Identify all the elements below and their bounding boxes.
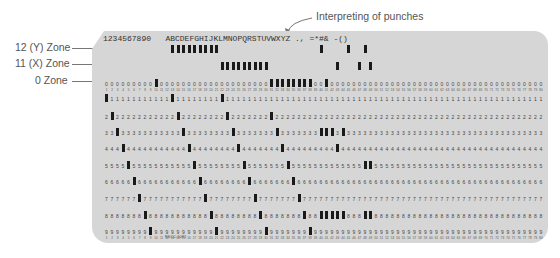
row-digit: 9 (473, 229, 478, 235)
zone-punch (171, 45, 174, 53)
row-digit: 4 (511, 146, 516, 152)
row-digit: 2 (308, 114, 313, 120)
punch-hole (336, 211, 339, 219)
punch-hole (177, 112, 180, 120)
row-digit: 5 (236, 163, 241, 169)
row-digit: 1 (330, 96, 335, 102)
punch-hole (309, 227, 312, 235)
row-digit: 9 (159, 229, 164, 235)
column-number: 61 (434, 88, 439, 92)
row-digit: 9 (363, 229, 368, 235)
row-digit: 0 (429, 81, 434, 87)
row-digit: 0 (379, 81, 384, 87)
column-number: 10 (154, 236, 159, 240)
row-digit: 6 (440, 179, 445, 185)
row-digit: 3 (473, 130, 478, 136)
punch-hole (287, 161, 290, 169)
row-digit: 1 (231, 96, 236, 102)
punch-hole (276, 79, 279, 87)
row-digit: 4 (396, 146, 401, 152)
row-digit: 0 (423, 81, 428, 87)
row-digit: 8 (192, 213, 197, 219)
row-digit: 8 (379, 213, 384, 219)
row-digit: 4 (297, 146, 302, 152)
row-digit: 1 (181, 96, 186, 102)
row-digit: 0 (330, 81, 335, 87)
punch-hole (138, 194, 141, 202)
row-digit: 1 (242, 96, 247, 102)
row-digit: 7 (264, 196, 269, 202)
column-number: 54 (396, 88, 401, 92)
column-number: 41 (324, 236, 329, 240)
column-number: 34 (286, 236, 291, 240)
row-digit: 1 (159, 96, 164, 102)
column-number: 33 (280, 88, 285, 92)
row-digit: 9 (500, 229, 505, 235)
row-digit: 3 (418, 130, 423, 136)
row-digit: 4 (528, 146, 533, 152)
row-digit: 6 (170, 179, 175, 185)
row-digit: 8 (539, 213, 544, 219)
punch-hole (149, 227, 152, 235)
column-number: 70 (484, 88, 489, 92)
row-digit: 5 (209, 163, 214, 169)
row-digit: 3 (308, 130, 313, 136)
row-digit: 9 (517, 229, 522, 235)
row-digit: 2 (324, 114, 329, 120)
column-number: 52 (385, 88, 390, 92)
column-number: 37 (302, 88, 307, 92)
column-number: 77 (522, 236, 527, 240)
row-digit: 5 (187, 163, 192, 169)
row-digit: 1 (407, 96, 412, 102)
row-digit: 9 (291, 229, 296, 235)
row-digit: 0 (198, 81, 203, 87)
row-digit: 5 (330, 163, 335, 169)
row-digit: 7 (220, 196, 225, 202)
row-digit: 3 (297, 130, 302, 136)
row-digit: 7 (506, 196, 511, 202)
row-digit: 2 (126, 114, 131, 120)
column-number: 30 (264, 88, 269, 92)
column-number: 17 (192, 88, 197, 92)
row-digit: 0 (225, 81, 230, 87)
row-digit: 5 (132, 163, 137, 169)
row-digit: 4 (308, 146, 313, 152)
row-digit: 8 (313, 213, 318, 219)
row-digit: 2 (357, 114, 362, 120)
row-digit: 2 (500, 114, 505, 120)
row-digit: 8 (346, 213, 351, 219)
row-digit: 5 (517, 163, 522, 169)
column-number: 25 (236, 236, 241, 240)
column-number: 12 (165, 236, 170, 240)
row-digit: 0 (484, 81, 489, 87)
row-digit: 1 (132, 96, 137, 102)
column-number: 16 (187, 88, 192, 92)
row-digit: 2 (264, 114, 269, 120)
row-digit: 0 (187, 81, 192, 87)
row-digit: 1 (445, 96, 450, 102)
row-digit: 6 (231, 179, 236, 185)
row-digit: 5 (407, 163, 412, 169)
row-digit: 1 (143, 96, 148, 102)
row-digit: 9 (357, 229, 362, 235)
row-digit: 2 (522, 114, 527, 120)
row-digit: 6 (209, 179, 214, 185)
row-digit: 1 (154, 96, 159, 102)
row-digit: 2 (165, 114, 170, 120)
row-digit: 5 (522, 163, 527, 169)
row-digit: 1 (264, 96, 269, 102)
row-digit: 9 (462, 229, 467, 235)
column-number: 32 (275, 88, 280, 92)
row-digit: 3 (506, 130, 511, 136)
row-digit: 5 (418, 163, 423, 169)
column-number: 4 (121, 236, 126, 240)
row-digit: 3 (220, 130, 225, 136)
row-digit: 3 (269, 130, 274, 136)
row-digit: 3 (385, 130, 390, 136)
row-digit: 2 (148, 114, 153, 120)
row-digit: 8 (390, 213, 395, 219)
row-digit: 6 (484, 179, 489, 185)
row-digit: 4 (319, 146, 324, 152)
punch-hole (298, 194, 301, 202)
column-number: 61 (434, 236, 439, 240)
